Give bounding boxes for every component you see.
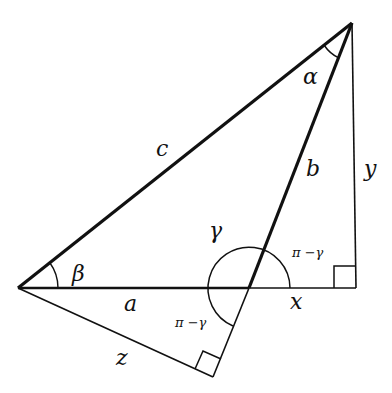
pi-minus-gamma-lower-label: π −γ — [174, 315, 207, 330]
triangle-diagram: α β γ π −γ π −γ a b c x y z — [0, 0, 392, 393]
beta-label: β — [71, 261, 85, 286]
b-extension-line — [213, 288, 249, 377]
alpha-arc — [324, 45, 339, 58]
y-perpendicular-line — [352, 23, 356, 288]
gamma-label: γ — [209, 218, 223, 243]
leg-y-label: y — [363, 156, 377, 181]
leg-x-label: x — [290, 289, 303, 314]
side-a-label: a — [124, 291, 137, 316]
leg-z-label: z — [115, 345, 128, 370]
right-angle-marker-right — [334, 266, 356, 288]
side-c-label: c — [156, 136, 168, 161]
alpha-label: α — [303, 64, 318, 89]
side-b-label: b — [306, 156, 320, 181]
beta-arc — [50, 263, 58, 288]
pi-minus-gamma-upper-label: π −γ — [291, 245, 324, 260]
